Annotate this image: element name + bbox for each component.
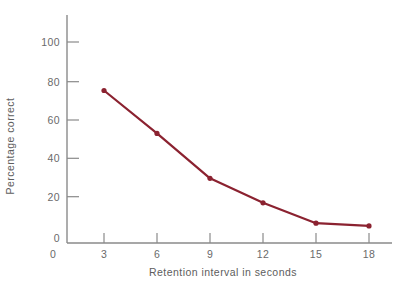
y-tick-label-80: 80 [26, 76, 60, 88]
x-tick-label-18: 18 [363, 248, 375, 260]
data-point [101, 88, 106, 93]
chart-plot-area [0, 0, 418, 287]
data-point [313, 221, 318, 226]
x-tick-label-15: 15 [310, 248, 322, 260]
y-tick-label-40: 40 [26, 152, 60, 164]
x-tick-label-9: 9 [207, 248, 213, 260]
data-point [260, 200, 265, 205]
x-tick-label-3: 3 [101, 248, 107, 260]
x-axis-title: Retention interval in seconds [0, 266, 418, 278]
data-point-markers [101, 88, 371, 229]
x-tick-label-0: 0 [50, 248, 56, 260]
y-tick-label-20: 20 [26, 191, 60, 203]
x-axis-ticks [104, 233, 369, 243]
data-point [154, 131, 159, 136]
data-point [366, 223, 371, 228]
x-tick-label-12: 12 [257, 248, 269, 260]
data-point [207, 176, 212, 181]
data-series-line [104, 91, 369, 226]
x-tick-label-6: 6 [154, 248, 160, 260]
y-axis-title: Percentage correct [4, 98, 16, 195]
chart-figure: 100 80 60 40 20 0 0 3 6 9 12 15 18 Perce… [0, 0, 418, 287]
y-tick-label-100: 100 [26, 36, 60, 48]
y-tick-label-0: 0 [26, 232, 60, 244]
y-axis-ticks [67, 42, 79, 197]
y-tick-label-60: 60 [26, 114, 60, 126]
